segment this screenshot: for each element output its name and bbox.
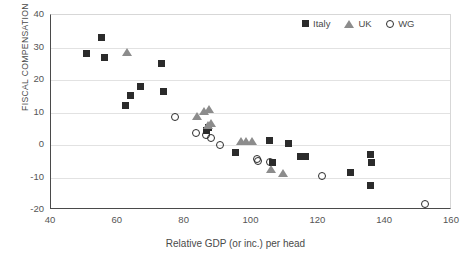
data-point-italy: [266, 137, 273, 144]
data-point-italy: [368, 159, 375, 166]
y-tick-label: 40: [14, 8, 44, 19]
y-tick-label: -20: [14, 203, 44, 214]
chart-legend: ItalyUKWG: [302, 19, 415, 29]
data-point-italy: [367, 182, 374, 189]
data-point-italy: [101, 54, 108, 61]
gridline: [51, 178, 450, 179]
gridline: [51, 145, 450, 146]
data-point-wg: [192, 129, 200, 137]
legend-label: UK: [358, 19, 371, 29]
filled-triangle-icon: [344, 20, 354, 28]
x-tick-label: 80: [164, 214, 204, 225]
data-point-italy: [127, 92, 134, 99]
scatter-chart: FISCAL COMPENSATION -20-10010203040 4060…: [0, 0, 471, 261]
data-point-italy: [98, 34, 105, 41]
data-point-wg: [254, 157, 262, 165]
data-point-uk: [266, 165, 276, 173]
y-tick-label: 30: [14, 41, 44, 52]
x-tick-label: 40: [30, 214, 70, 225]
x-tick-label: 140: [364, 214, 404, 225]
data-point-italy: [302, 153, 309, 160]
data-point-italy: [137, 83, 144, 90]
data-point-italy: [160, 88, 167, 95]
y-tick-label: 10: [14, 106, 44, 117]
data-point-italy: [122, 102, 129, 109]
legend-label: Italy: [313, 19, 330, 29]
legend-item-wg: WG: [386, 19, 415, 29]
data-point-wg: [207, 134, 215, 142]
open-circle-icon: [386, 20, 395, 29]
data-point-italy: [158, 60, 165, 67]
data-point-italy: [367, 151, 374, 158]
filled-square-icon: [302, 20, 309, 27]
y-tick-label: 20: [14, 73, 44, 84]
plot-area: [50, 14, 451, 209]
data-point-uk: [122, 48, 132, 56]
data-point-uk: [206, 119, 216, 127]
data-point-wg: [421, 200, 429, 208]
data-point-italy: [83, 50, 90, 57]
data-point-wg: [216, 141, 224, 149]
data-point-uk: [204, 105, 214, 113]
x-tick-label: 160: [431, 214, 471, 225]
data-point-uk: [278, 169, 288, 177]
data-point-italy: [232, 149, 239, 156]
legend-item-italy: Italy: [302, 19, 330, 29]
data-point-wg: [318, 172, 326, 180]
data-point-italy: [347, 169, 354, 176]
x-tick-label: 60: [97, 214, 137, 225]
y-tick-label: 0: [14, 138, 44, 149]
x-axis-title: Relative GDP (or inc.) per head: [0, 238, 471, 249]
y-tick-label: -10: [14, 171, 44, 182]
data-point-italy: [285, 140, 292, 147]
data-point-wg: [171, 113, 179, 121]
x-tick-label: 100: [231, 214, 271, 225]
data-point-uk: [247, 137, 257, 145]
gridline: [51, 48, 450, 49]
gridline: [51, 113, 450, 114]
legend-item-uk: UK: [344, 19, 371, 29]
legend-label: WG: [398, 19, 414, 29]
x-tick-label: 120: [297, 214, 337, 225]
gridline: [51, 80, 450, 81]
